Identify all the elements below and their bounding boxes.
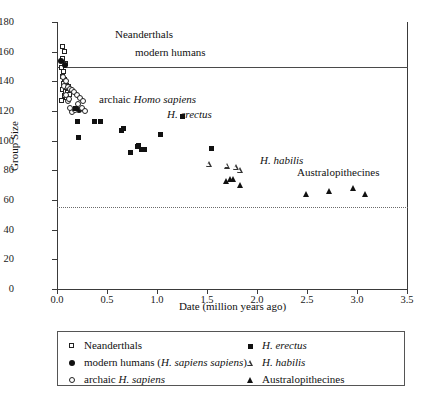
data-point [362, 191, 368, 197]
data-point [237, 167, 243, 173]
y-tick-label: 80 [0, 165, 14, 176]
h-erectus-annotation: H. erectus [167, 108, 212, 120]
y-tick [52, 259, 57, 260]
legend-h-habilis: H. habilis [244, 354, 344, 370]
legend-box: Neanderthalsmodern humans (H. sapiens sa… [57, 331, 405, 386]
legend-label: Australopithecines [262, 373, 344, 385]
open-square-icon [66, 339, 78, 351]
filled-triangle-icon [244, 373, 256, 385]
data-point [224, 163, 230, 169]
legend-label: H. habilis [262, 356, 305, 368]
y-tick-label: 120 [0, 106, 14, 117]
y-tick [52, 52, 57, 53]
data-point [206, 161, 212, 167]
modern-humans-annotation: modern humans [135, 46, 206, 58]
data-point [98, 119, 103, 124]
legend-label: archaic H. sapiens [84, 373, 165, 385]
filled-square-icon [244, 339, 256, 351]
y-tick-label: 60 [0, 195, 14, 206]
neanderthals-annotation: Neanderthals [115, 28, 173, 40]
modern-human-group-size-line [57, 67, 408, 68]
open-triangle-icon [244, 356, 256, 368]
y-tick [52, 111, 57, 112]
data-point [237, 182, 243, 188]
data-point [121, 126, 126, 131]
y-tick-label: 180 [0, 17, 14, 28]
data-point [230, 176, 236, 182]
legend-neanderthals: Neanderthals [66, 337, 247, 353]
y-tick [52, 141, 57, 142]
x-tick-label: 3.5 [387, 294, 427, 305]
x-tick-label: 0.5 [87, 294, 127, 305]
y-tick-label: 160 [0, 47, 14, 58]
data-point [62, 62, 68, 68]
x-tick-label: 3.0 [337, 294, 377, 305]
legend-right-column: H. erectusH. habilisAustralopithecines [244, 337, 344, 388]
x-tick-label: 0.0 [37, 294, 77, 305]
legend-archaic-sapiens: archaic H. sapiens [66, 371, 247, 387]
y-tick [52, 170, 57, 171]
data-point [303, 191, 309, 197]
legend-left-column: Neanderthalsmodern humans (H. sapiens sa… [66, 337, 247, 388]
y-tick-label: 100 [0, 136, 14, 147]
legend-australopithecines: Australopithecines [244, 371, 344, 387]
data-point [76, 135, 81, 140]
legend-label: H. erectus [262, 339, 307, 351]
x-tick-label: 1.5 [187, 294, 227, 305]
y-tick-label: 20 [0, 254, 14, 265]
legend-label: modern humans (H. sapiens sapiens) [84, 356, 247, 368]
filled-circle-icon [66, 356, 78, 368]
y-tick [52, 22, 57, 23]
data-point [209, 146, 214, 151]
data-point [142, 147, 147, 152]
y-tick [52, 81, 57, 82]
x-axis-line [57, 289, 408, 290]
x-tick-label: 2.5 [287, 294, 327, 305]
data-point [66, 96, 72, 102]
plot-area: 0.00.51.01.52.02.53.03.5 Neanderthalsmod… [57, 22, 408, 290]
y-tick-label: 0 [0, 284, 14, 295]
data-point [62, 49, 67, 54]
data-point [73, 106, 78, 111]
data-point [128, 150, 133, 155]
data-point [92, 119, 97, 124]
data-point [350, 185, 356, 191]
right-axis-line [407, 22, 408, 290]
lower-bound-line [57, 207, 408, 208]
group-size-scatter-figure: Group Size Date (million years ago) 0.00… [0, 0, 428, 396]
archaic-homo-sapiens-annotation: archaic Homo sapiens [99, 93, 196, 105]
data-point [158, 132, 163, 137]
legend-label: Neanderthals [84, 339, 142, 351]
legend-modern-humans: modern humans (H. sapiens sapiens) [66, 354, 247, 370]
y-tick [52, 200, 57, 201]
data-point [75, 119, 80, 124]
open-circle-icon [66, 373, 78, 385]
australopithecines-annotation: Australopithecines [297, 166, 379, 178]
data-point [82, 108, 88, 114]
data-point [59, 98, 64, 103]
x-tick-label: 1.0 [137, 294, 177, 305]
data-point [326, 188, 332, 194]
y-tick [52, 230, 57, 231]
h-habilis-annotation: H. habilis [260, 154, 303, 166]
y-tick-label: 40 [0, 225, 14, 236]
x-tick-label: 2.0 [237, 294, 277, 305]
legend-h-erectus: H. erectus [244, 337, 344, 353]
y-tick-label: 140 [0, 76, 14, 87]
